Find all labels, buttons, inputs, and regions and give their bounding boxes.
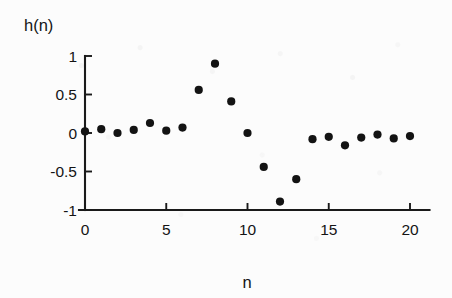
data-point bbox=[162, 127, 170, 135]
data-point bbox=[292, 175, 300, 183]
data-point bbox=[406, 132, 414, 140]
data-point bbox=[195, 86, 203, 94]
data-point bbox=[373, 130, 381, 138]
y-tick-label: 1 bbox=[68, 48, 77, 65]
y-tick-label: 0 bbox=[68, 125, 77, 142]
x-tick-label: 10 bbox=[239, 221, 257, 238]
x-tick-label: 5 bbox=[162, 221, 171, 238]
y-axis-label: h(n) bbox=[24, 16, 53, 34]
x-tick-label: 0 bbox=[81, 221, 90, 238]
data-point bbox=[390, 134, 398, 142]
y-tick-label: 0.5 bbox=[55, 86, 77, 103]
data-point bbox=[227, 97, 235, 105]
x-axis-ticks: 05101520 bbox=[81, 203, 419, 238]
data-point bbox=[146, 119, 154, 127]
data-point bbox=[357, 134, 365, 142]
data-point bbox=[243, 129, 251, 137]
y-tick-label: -0.5 bbox=[50, 163, 77, 180]
impulse-response-chart: -1-0.500.51 05101520 h(n) n bbox=[0, 0, 452, 298]
data-point bbox=[113, 129, 121, 137]
x-tick-label: 20 bbox=[401, 221, 419, 238]
data-points bbox=[81, 60, 414, 206]
data-point bbox=[276, 197, 284, 205]
data-point bbox=[178, 124, 186, 132]
data-point bbox=[341, 141, 349, 149]
x-tick-label: 15 bbox=[320, 221, 337, 238]
data-point bbox=[211, 60, 219, 68]
plot-area: -1-0.500.51 05101520 h(n) n bbox=[0, 0, 452, 298]
data-point bbox=[97, 125, 105, 133]
y-tick-label: -1 bbox=[63, 202, 77, 219]
x-axis-label: n bbox=[242, 273, 251, 291]
data-point bbox=[325, 133, 333, 141]
data-point bbox=[308, 135, 316, 143]
data-point bbox=[260, 163, 268, 171]
data-point bbox=[81, 127, 89, 135]
data-point bbox=[130, 126, 138, 134]
